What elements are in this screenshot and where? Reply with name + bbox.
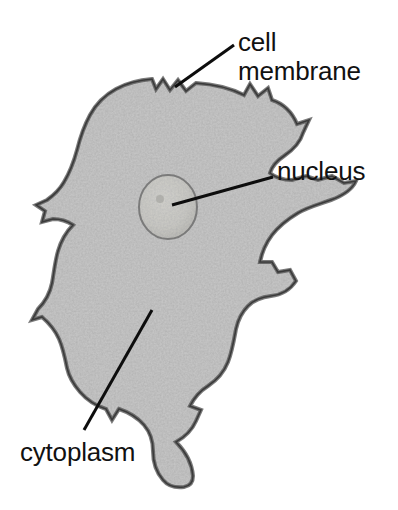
label-nucleus: nucleus — [277, 157, 365, 186]
label-cell-membrane: cell membrane — [238, 28, 361, 86]
amoeba-labeled-diagram: cell membrane nucleus cytoplasm — [0, 0, 398, 510]
label-cell-membrane-line1: cell — [238, 28, 361, 57]
label-cytoplasm: cytoplasm — [20, 438, 135, 467]
nucleolus — [156, 195, 164, 203]
cell-membrane-leader-line — [175, 45, 234, 87]
label-cell-membrane-line2: membrane — [238, 57, 361, 86]
